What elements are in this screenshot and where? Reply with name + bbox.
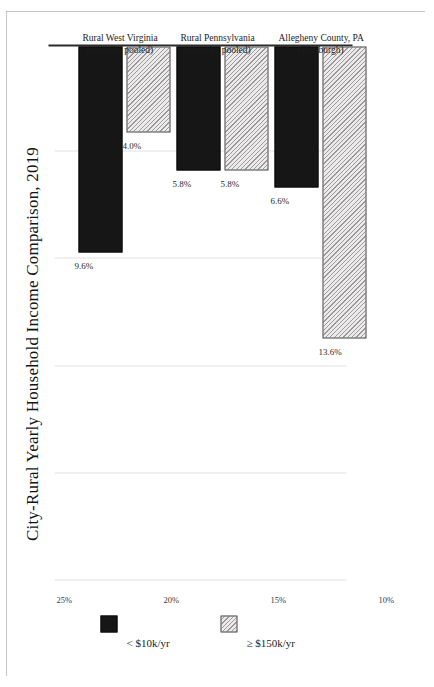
chart-legend: < $10k/yr ≥ $150k/yr bbox=[54, 600, 346, 646]
gridline-15 bbox=[54, 365, 346, 366]
plot-area: 9.6% 4.0% Rural West Virginia (counties … bbox=[54, 44, 346, 580]
bar-value-rural-pa-high-income: 5.8% bbox=[220, 178, 239, 188]
bar-rural-wv-high-income[interactable] bbox=[126, 46, 170, 132]
bar-rural-wv-low-income[interactable] bbox=[78, 46, 122, 252]
bar-allegheny-high-income[interactable] bbox=[322, 46, 366, 338]
category-label-allegheny-line1: Allegheny County, PA bbox=[278, 32, 363, 42]
category-label-rural-wv-line1: Rural West Virginia bbox=[82, 32, 157, 42]
bar-rural-pa-high-income[interactable] bbox=[224, 46, 268, 170]
legend-label-low-income: < $10k/yr bbox=[126, 636, 169, 648]
rotated-figure-wrapper: City-Rural Yearly Household Income Compa… bbox=[6, 11, 425, 676]
category-label-allegheny: Allegheny County, PA (Pittsburgh) bbox=[278, 32, 363, 55]
bar-chart-figure: City-Rural Yearly Household Income Compa… bbox=[6, 11, 425, 676]
tick-label-15: 15% bbox=[270, 594, 286, 604]
category-label-allegheny-line2: (Pittsburgh) bbox=[278, 44, 363, 56]
bar-value-rural-pa-low-income: 5.8% bbox=[172, 178, 191, 188]
gridline-25 bbox=[54, 579, 346, 580]
category-label-rural-pa-line1: Rural Pennsylvania bbox=[180, 32, 254, 42]
category-label-rural-pa: Rural Pennsylvania (counties pooled) bbox=[180, 32, 254, 55]
bar-allegheny-low-income[interactable] bbox=[274, 46, 318, 187]
bar-value-allegheny-low-income: 6.6% bbox=[270, 195, 289, 205]
gridline-10 bbox=[54, 257, 346, 258]
legend-label-high-income: ≥ $150k/yr bbox=[246, 636, 295, 648]
bar-value-allegheny-high-income: 13.6% bbox=[318, 346, 341, 356]
category-label-rural-wv-line2: (counties pooled) bbox=[82, 44, 157, 56]
category-label-rural-pa-line2: (counties pooled) bbox=[180, 44, 254, 56]
tick-label-20: 20% bbox=[163, 594, 179, 604]
gridline-20 bbox=[54, 472, 346, 473]
bar-value-rural-wv-low-income: 9.6% bbox=[74, 260, 93, 270]
bar-value-rural-wv-high-income: 4.0% bbox=[122, 140, 141, 150]
bar-rural-pa-low-income[interactable] bbox=[176, 46, 220, 170]
tick-label-10: 10% bbox=[378, 594, 394, 604]
legend-swatch-high-income bbox=[220, 615, 237, 632]
chart-title: City-Rural Yearly Household Income Compa… bbox=[22, 11, 42, 676]
legend-swatch-low-income bbox=[100, 615, 117, 632]
tick-label-25: 25% bbox=[56, 594, 72, 604]
category-label-rural-wv: Rural West Virginia (counties pooled) bbox=[82, 32, 157, 55]
